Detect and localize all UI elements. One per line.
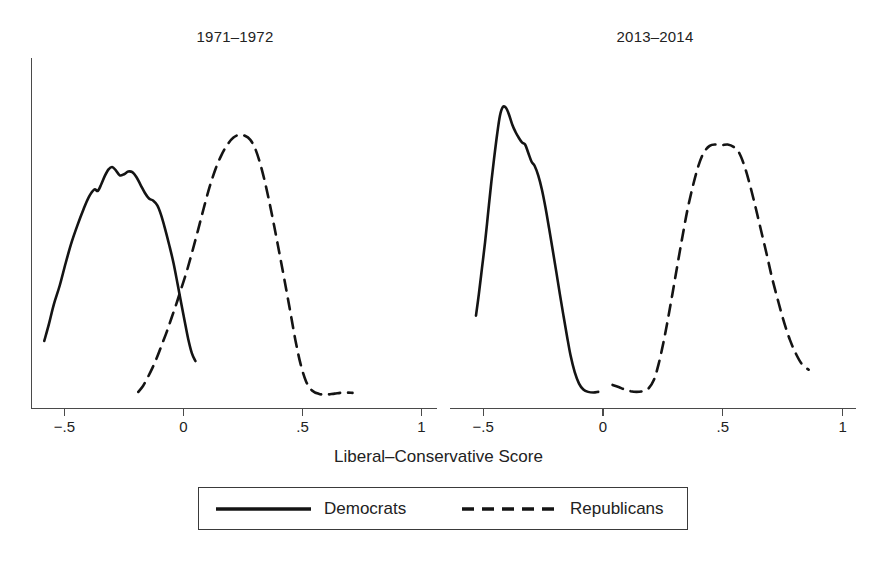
legend-entry-republicans: Republicans (461, 488, 664, 529)
legend-swatch-dashed-icon (461, 504, 558, 514)
panel-1-tick-marks (65, 409, 422, 416)
legend: Democrats Republicans (198, 487, 688, 530)
legend-label-republicans: Republicans (570, 499, 664, 519)
legend-label-democrats: Democrats (324, 499, 406, 519)
x-tick-label: 1 (402, 418, 442, 435)
legend-swatch-solid-icon (215, 504, 312, 514)
curve-democrats-2013-2014 (476, 106, 598, 392)
figure-root: 1971–1972 2013–2014 −.50.51 −.50.51 Libe… (0, 0, 877, 562)
legend-entry-democrats: Democrats (215, 488, 406, 529)
x-tick-label: −.5 (45, 418, 85, 435)
x-tick-label: .5 (703, 418, 743, 435)
curve-republicans-1971-1972 (138, 135, 352, 395)
x-tick-label: 0 (164, 418, 204, 435)
plot-area (0, 0, 877, 562)
x-tick-label: 0 (583, 418, 623, 435)
x-tick-label: .5 (283, 418, 323, 435)
curve-democrats-1971-1972 (44, 167, 195, 361)
x-tick-label: 1 (823, 418, 863, 435)
x-tick-label: −.5 (463, 418, 503, 435)
x-axis-label: Liberal–Conservative Score (0, 447, 877, 467)
panel-2-tick-marks (483, 409, 843, 416)
curve-republicans-2013-2014 (613, 144, 809, 391)
